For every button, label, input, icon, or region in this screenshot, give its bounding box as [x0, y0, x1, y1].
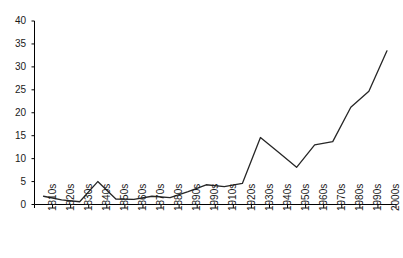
y-tick-label: 15 [2, 131, 26, 141]
y-tick-label: 35 [2, 39, 26, 49]
x-tick-label: 1820s [66, 183, 76, 210]
x-tick-label: 1860s [138, 183, 148, 210]
x-tick-label: 1850s [120, 183, 130, 210]
chart-plot-area [0, 0, 403, 258]
x-tick-label: 1990s [210, 183, 220, 210]
y-tick-label: 30 [2, 62, 26, 72]
y-tick-label: 0 [2, 200, 26, 210]
x-tick-label: 1990s [373, 183, 383, 210]
x-tick-label: 1870s [156, 183, 166, 210]
x-tick-label: 2000s [391, 183, 401, 210]
x-tick-label: 1840s [102, 183, 112, 210]
line-chart: 0510152025303540 1810s1820s1830s1840s185… [0, 0, 403, 258]
x-tick-label: 1970s [337, 183, 347, 210]
data-series-line [44, 51, 387, 202]
x-tick-label: 1880s [174, 183, 184, 210]
x-tick-label: 1980s [355, 183, 365, 210]
chart-axes [35, 21, 397, 205]
x-tick-label: 1960s [319, 183, 329, 210]
y-tick-label: 5 [2, 177, 26, 187]
y-tick-label: 20 [2, 108, 26, 118]
x-tick-label: 1890s [192, 183, 202, 210]
x-tick-label: 1950s [301, 183, 311, 210]
x-tick-label: 1930s [265, 183, 275, 210]
y-tick-label: 40 [2, 16, 26, 26]
x-tick-label: 1920s [247, 183, 257, 210]
x-tick-label: 1830s [84, 183, 94, 210]
x-tick-label: 1910s [228, 183, 238, 210]
x-tick-label: 1940s [283, 183, 293, 210]
x-tick-label: 1810s [48, 183, 58, 210]
y-tick-label: 25 [2, 85, 26, 95]
y-tick-label: 10 [2, 154, 26, 164]
